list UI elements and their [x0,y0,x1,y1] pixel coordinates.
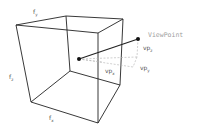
vp-y-label: vpy [140,64,150,73]
cube-connect-bottom-left [31,71,70,102]
projection-z-drop [137,39,138,57]
vp-z-label: vpz [143,44,152,53]
viewpoint-point [136,37,140,41]
cube-back-right-edge [120,19,123,85]
cube-front-face [16,25,98,123]
projection-y-diag [133,57,137,67]
face-x-label: fx [49,114,54,123]
projection-to-z-foot [79,57,137,59]
face-y-label: fy [33,8,38,17]
viewpoint-label: ViewPoint [148,31,183,39]
cube-connect-bottom-right [98,85,120,123]
cube-connect-top-left [16,16,66,25]
cube-diagram: fy fz fx ViewPoint vpz vpy vpx [0,0,205,132]
view-direction-line [79,39,138,59]
projection-x-short [79,59,102,62]
projection-lines [79,39,138,67]
cube-connect-top-right [98,19,123,33]
vp-x-label: vpx [105,67,115,76]
face-z-label: fz [9,73,13,82]
cube-back-top-edge [66,16,123,19]
origin-point [77,57,81,61]
cube-back-left-edge [66,16,70,71]
